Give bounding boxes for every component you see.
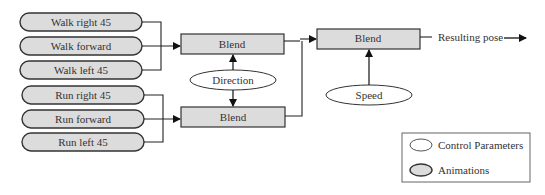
walk-connectors (142, 22, 180, 70)
animation-label: Run left 45 (58, 136, 108, 148)
animation-label: Walk forward (51, 40, 112, 52)
blend-label: Blend (355, 32, 382, 44)
animation-walk-left-45: Walk left 45 (20, 61, 142, 79)
direction-label: Direction (212, 74, 254, 86)
blend-label: Blend (219, 38, 246, 50)
animation-label: Walk left 45 (54, 64, 109, 76)
blend-node-walk: Blend (181, 34, 284, 54)
animation-run-forward: Run forward (22, 110, 144, 128)
legend-control-swatch (410, 139, 432, 151)
animation-walk-right-45: Walk right 45 (20, 13, 142, 31)
animation-walk-forward: Walk forward (20, 37, 142, 55)
legend: Control Parameters Animations (402, 133, 530, 182)
animation-label: Run right 45 (55, 89, 111, 101)
output-label: Resulting pose (438, 31, 503, 43)
blend-node-run: Blend (181, 107, 285, 127)
animation-run-right-45: Run right 45 (22, 86, 144, 104)
run-connectors (144, 95, 180, 142)
animation-label: Run forward (55, 113, 111, 125)
legend-animation-swatch (410, 164, 432, 176)
speed-label: Speed (356, 89, 383, 101)
legend-control-label: Control Parameters (438, 139, 523, 151)
blend-node-final: Blend (317, 29, 420, 49)
blend-label: Blend (220, 111, 247, 123)
control-parameter-speed: Speed (326, 85, 412, 105)
blend-merge-connectors (284, 39, 316, 116)
animation-run-left-45: Run left 45 (22, 133, 144, 151)
blend-tree-diagram: Walk right 45 Walk forward Walk left 45 … (0, 0, 545, 195)
control-parameter-direction: Direction (190, 70, 276, 90)
legend-animation-label: Animations (438, 164, 489, 176)
animation-label: Walk right 45 (51, 16, 112, 28)
